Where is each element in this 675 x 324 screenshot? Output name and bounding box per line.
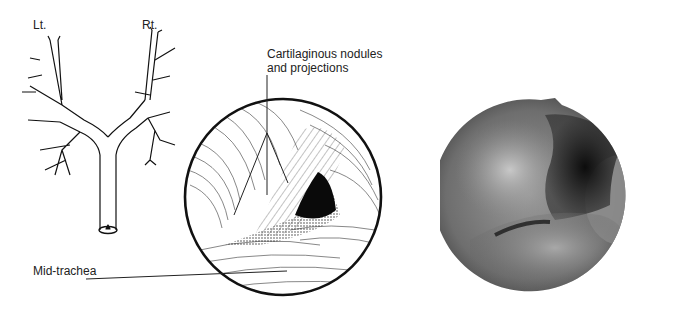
bronchial-tree-schematic (22, 27, 175, 234)
annotation-line-2: and projections (267, 61, 382, 75)
cartilaginous-nodules-annotation: Cartilaginous nodules and projections (267, 47, 382, 75)
annotation-line-1: Cartilaginous nodules (267, 47, 382, 61)
right-side-label: Rt. (142, 18, 157, 32)
mid-trachea-annotation: Mid-trachea (33, 264, 96, 278)
endoscopic-photo (440, 95, 655, 300)
left-side-label: Lt. (33, 18, 46, 32)
trachea-drawing (86, 75, 390, 305)
